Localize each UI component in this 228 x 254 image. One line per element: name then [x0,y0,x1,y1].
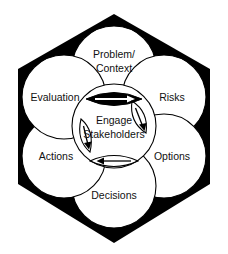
diagram-container: Problem/ Context Risks Options Decisions… [0,0,228,254]
label-engage-stakeholders-line1: Engage [96,114,132,126]
label-risks: Risks [159,91,185,103]
label-evaluation: Evaluation [30,91,79,103]
label-options: Options [154,150,190,162]
stakeholder-cycle-diagram: Problem/ Context Risks Options Decisions… [0,0,228,254]
label-problem-context-line2: Context [96,62,132,74]
label-actions: Actions [39,150,73,162]
label-problem-context-line1: Problem/ [93,48,135,60]
label-decisions: Decisions [91,189,137,201]
label-engage-stakeholders-line2: Stakeholders [83,128,144,140]
